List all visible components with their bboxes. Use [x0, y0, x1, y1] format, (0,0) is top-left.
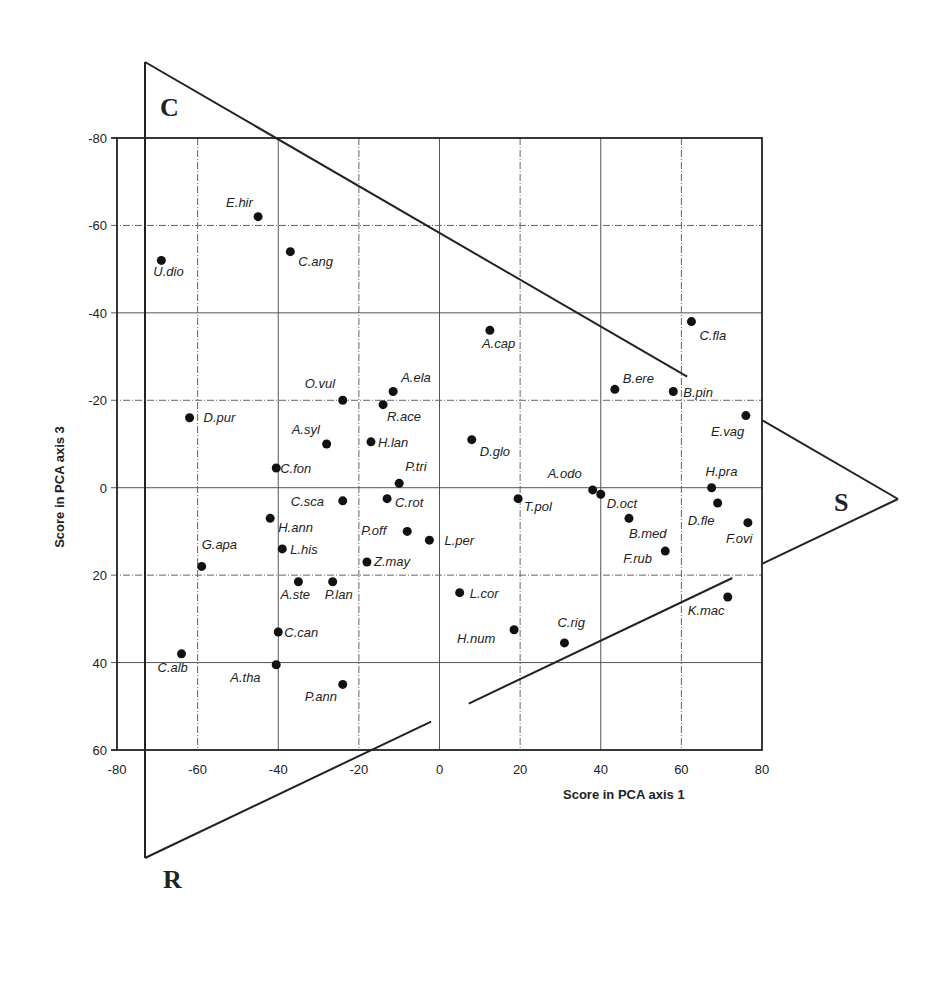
point-label: P.off: [361, 523, 387, 538]
triangle-edge-rs: [145, 722, 431, 858]
point-marker: [278, 544, 287, 553]
point-label: D.glo: [480, 444, 510, 459]
point-marker: [514, 494, 523, 503]
point-label: P.ann: [305, 689, 337, 704]
point-label: A.tha: [229, 670, 260, 685]
point-marker: [395, 479, 404, 488]
point-marker: [322, 440, 331, 449]
point-label: K.mac: [688, 603, 725, 618]
vertex-label-r: R: [163, 865, 182, 894]
data-point: B.ere: [610, 371, 654, 394]
data-point: Z.may: [362, 554, 411, 569]
y-tick-label: 20: [93, 568, 107, 583]
data-point: A.ste: [279, 577, 310, 602]
point-label: T.pol: [524, 499, 553, 514]
point-label: P.tri: [405, 459, 428, 474]
data-point: R.ace: [379, 400, 421, 424]
point-marker: [338, 396, 347, 405]
data-point: A.tha: [229, 660, 281, 685]
data-point: G.apa: [197, 537, 237, 571]
y-tick-label: -20: [88, 393, 107, 408]
point-marker: [272, 660, 281, 669]
point-marker: [328, 577, 337, 586]
vertex-label-s: S: [834, 488, 848, 517]
point-label: O.vul: [305, 376, 336, 391]
point-label: B.med: [629, 526, 667, 541]
data-point: E.vag: [711, 411, 751, 439]
point-marker: [723, 593, 732, 602]
data-point: L.per: [425, 533, 475, 548]
point-marker: [177, 649, 186, 658]
data-point: C.sca: [291, 494, 348, 509]
data-point: B.med: [624, 514, 667, 542]
point-label: A.ela: [400, 370, 431, 385]
x-tick-label: 60: [674, 762, 688, 777]
x-tick-label: 40: [594, 762, 608, 777]
point-marker: [266, 514, 275, 523]
x-tick-label: 80: [755, 762, 769, 777]
data-point: H.lan: [366, 435, 408, 450]
point-label: U.dio: [153, 264, 183, 279]
point-marker: [510, 625, 519, 634]
point-label: P.lan: [325, 587, 353, 602]
point-marker: [596, 490, 605, 499]
point-marker: [467, 435, 476, 444]
point-label: L.his: [290, 542, 318, 557]
data-point: H.ann: [266, 514, 313, 536]
point-marker: [338, 680, 347, 689]
point-label: F.rub: [623, 551, 652, 566]
data-point: C.ang: [286, 247, 334, 268]
point-label: C.fon: [280, 461, 311, 476]
point-marker: [197, 562, 206, 571]
data-point: U.dio: [153, 256, 183, 280]
data-point: H.num: [457, 625, 519, 646]
point-marker: [403, 527, 412, 536]
point-label: H.pra: [706, 464, 738, 479]
data-point: C.fon: [272, 461, 312, 476]
data-point: A.syl: [291, 422, 332, 449]
y-tick-label: -40: [88, 306, 107, 321]
grid: [111, 138, 762, 750]
data-point: B.pin: [669, 385, 713, 400]
y-tick-label: 40: [93, 656, 107, 671]
point-marker: [366, 437, 375, 446]
point-label: F.ovi: [726, 531, 754, 546]
data-points: U.dioE.hirC.angA.capC.flaO.vulA.elaR.ace…: [153, 195, 753, 705]
point-label: H.num: [457, 631, 495, 646]
point-marker: [624, 514, 633, 523]
x-tick-label: -60: [188, 762, 207, 777]
x-tick-label: 20: [513, 762, 527, 777]
y-tick-label: 0: [100, 481, 107, 496]
data-point: C.alb: [158, 649, 188, 675]
point-label: B.ere: [623, 371, 654, 386]
point-marker: [669, 387, 678, 396]
data-point: C.can: [274, 625, 318, 640]
point-marker: [687, 317, 696, 326]
data-point: C.fla: [687, 317, 726, 343]
triangle-edge-cs: [145, 62, 687, 377]
point-marker: [294, 577, 303, 586]
point-marker: [338, 496, 347, 505]
point-marker: [389, 387, 398, 396]
point-label: D.oct: [607, 496, 639, 511]
point-marker: [383, 494, 392, 503]
data-point: T.pol: [514, 494, 553, 513]
point-label: C.sca: [291, 494, 324, 509]
point-marker: [713, 499, 722, 508]
point-label: C.can: [284, 625, 318, 640]
point-label: B.pin: [683, 385, 713, 400]
point-label: D.fle: [688, 513, 715, 528]
point-marker: [455, 588, 464, 597]
data-point: A.ela: [389, 370, 431, 397]
x-tick-label: -40: [269, 762, 288, 777]
point-label: H.ann: [278, 520, 313, 535]
point-marker: [743, 518, 752, 527]
data-point: L.cor: [455, 586, 499, 601]
point-label: A.odo: [547, 466, 582, 481]
x-tick-label: -80: [108, 762, 127, 777]
point-marker: [286, 247, 295, 256]
data-point: E.hir: [226, 195, 263, 222]
axis-ticks: -80-60-40-20020406080-80-60-40-200204060: [88, 131, 769, 777]
pca-scatter-chart: -80-60-40-20020406080-80-60-40-200204060…: [0, 0, 945, 991]
point-label: C.alb: [158, 660, 188, 675]
